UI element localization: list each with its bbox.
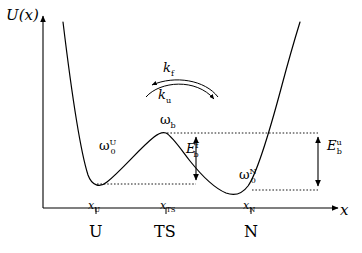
state-label-native: N	[244, 224, 258, 240]
rate-unfolding-subscript: u	[166, 96, 171, 105]
rate-constant-unfolding: ku	[158, 88, 171, 105]
tick-label-xts: xTS	[160, 200, 175, 214]
barrier-unfolding-subscript: b	[337, 147, 342, 156]
tick-xu-subscript: U	[94, 206, 100, 214]
rate-folding-subscript: f	[171, 69, 174, 78]
tick-xn-subscript: N	[249, 206, 255, 214]
omega-barrier-symbol: ω	[160, 112, 171, 127]
omega-native-subscript: 0	[251, 176, 256, 185]
barrier-unfolding-superscript: u	[337, 138, 342, 147]
barrier-folding-subscript: b	[193, 150, 198, 159]
barrier-folding-label: Efb	[186, 142, 199, 159]
omega-unfolded-label: ωU0	[99, 139, 116, 156]
omega-native-symbol: ω	[239, 167, 250, 182]
omega-native-label: ωN0	[239, 168, 256, 185]
tick-xts-subscript: TS	[166, 206, 175, 214]
omega-unfolded-subscript: 0	[110, 147, 115, 156]
omega-unfolded-symbol: ω	[99, 138, 110, 153]
omega-barrier-subscript: b	[171, 121, 176, 130]
barrier-unfolding-symbol: E	[327, 138, 337, 153]
potential-energy-diagram: U(x) x kf ku ωb ωU0 ωN0 Efb Eub xU xTS x…	[0, 0, 362, 253]
omega-native-superscript: N	[250, 167, 257, 176]
state-label-unfolded: U	[89, 224, 102, 240]
rate-folding-symbol: k	[163, 60, 171, 75]
barrier-folding-superscript: f	[196, 141, 199, 150]
state-label-transition: TS	[154, 224, 176, 240]
omega-unfolded-superscript: U	[110, 138, 117, 147]
rate-constant-folding: kf	[163, 61, 174, 78]
barrier-unfolding-label: Eub	[327, 139, 342, 156]
x-axis-label: x	[340, 203, 348, 218]
tick-label-xu: xU	[88, 200, 100, 214]
rate-unfolding-symbol: k	[158, 87, 166, 102]
potential-curve	[63, 22, 300, 194]
y-axis-label: U(x)	[6, 8, 39, 23]
rate-arrow-unfolding	[146, 84, 214, 99]
tick-label-xn: xN	[243, 200, 255, 214]
omega-barrier-label: ωb	[160, 113, 176, 130]
diagram-canvas	[0, 0, 362, 253]
